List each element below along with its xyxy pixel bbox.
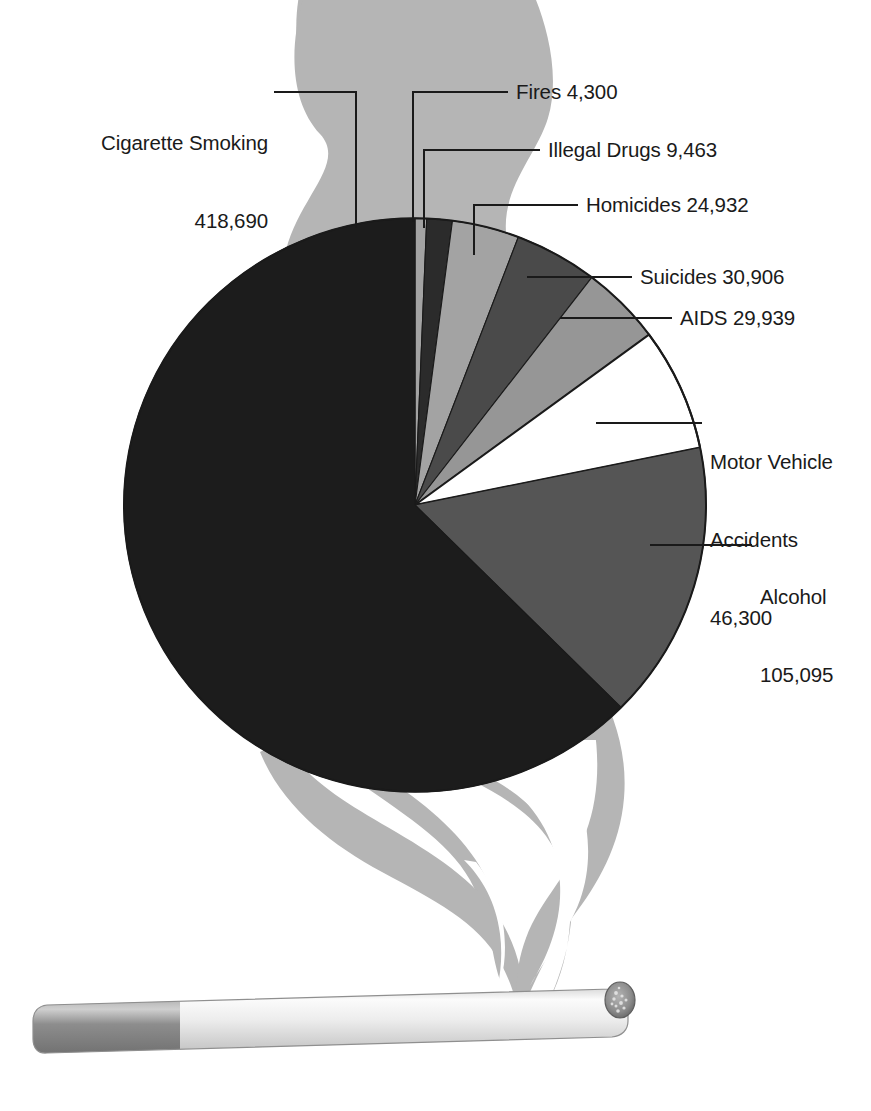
label-alcohol-line2: 105,095 <box>760 662 833 688</box>
label-alcohol: Alcohol 105,095 <box>760 532 833 740</box>
label-cigarette-smoking-name: Cigarette Smoking <box>68 130 268 156</box>
label-cigarette-smoking: Cigarette Smoking 418,690 <box>68 78 268 286</box>
label-homicides: Homicides 24,932 <box>586 192 749 218</box>
pie-slices-group: Fires 4,300Illegal Drugs 9,463Homicides … <box>124 218 706 791</box>
cigarette-illustration <box>20 982 635 1060</box>
figure-canvas: Fires 4,300Illegal Drugs 9,463Homicides … <box>0 0 871 1111</box>
label-fires: Fires 4,300 <box>516 79 617 105</box>
cigarette-paper <box>180 985 635 1057</box>
cigarette-body <box>20 985 635 1060</box>
label-motor-vehicle-line1: Motor Vehicle <box>710 449 833 475</box>
label-cigarette-smoking-value: 418,690 <box>68 208 268 234</box>
label-suicides: Suicides 30,906 <box>640 264 784 290</box>
label-illegal-drugs: Illegal Drugs 9,463 <box>548 137 717 163</box>
label-aids: AIDS 29,939 <box>680 305 795 331</box>
label-alcohol-line1: Alcohol <box>760 584 833 610</box>
